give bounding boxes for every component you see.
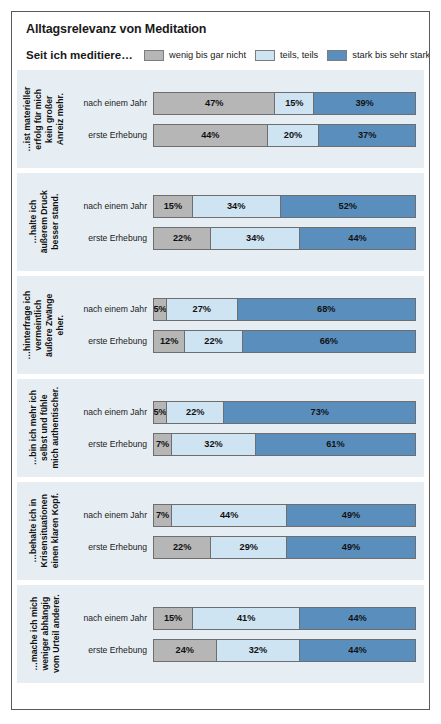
bar-row-label: nach einem Jahr [73,304,153,314]
bar-segment-mid[interactable]: 22% [185,331,242,352]
bar-row: nach einem Jahr5%22%73% [73,401,416,424]
bar-segment-mid[interactable]: 22% [167,402,224,423]
bar-segment-high[interactable]: 39% [314,93,415,114]
chart-subtitle: Seit ich meditiere… [26,49,144,61]
group-category-line: Anreiz mehr. [56,86,67,151]
bar-segment-high[interactable]: 44% [300,640,415,661]
chart-group-panel: …mache ich michweniger abhängigvom Urtei… [17,585,424,683]
bar-segment-low[interactable]: 44% [154,125,268,146]
bar-row: erste Erhebung24%32%44% [73,639,416,662]
bar-segment-high[interactable]: 52% [281,196,415,217]
group-bars: nach einem Jahr5%22%73%erste Erhebung7%3… [73,401,424,456]
bar-segment-high[interactable]: 73% [224,402,415,423]
bar-row: nach einem Jahr5%27%68% [73,298,416,321]
bar-segment-low[interactable]: 22% [154,537,211,558]
bar-segment-low[interactable]: 5% [154,402,167,423]
bar-segment-mid[interactable]: 44% [172,505,287,526]
bar-segment-high[interactable]: 44% [300,228,415,249]
legend-label: wenig bis gar nicht [169,50,246,60]
bar-segment-low[interactable]: 47% [154,93,275,114]
group-bars: nach einem Jahr5%27%68%erste Erhebung12%… [73,298,424,353]
bar-row: erste Erhebung22%34%44% [73,227,416,250]
bar-segment-high[interactable]: 49% [287,537,415,558]
bar-segment-high[interactable]: 44% [300,608,415,629]
group-bars: nach einem Jahr47%15%39%erste Erhebung44… [73,92,424,147]
bar-track: 7%32%61% [153,433,416,456]
group-category-line: …bin ich mehr ich [28,387,39,469]
bar-track: 5%22%73% [153,401,416,424]
group-category-line: äußere Zwänge [45,290,56,359]
bar-row: nach einem Jahr47%15%39% [73,92,416,115]
group-category-line: selbst und fühle [39,387,50,469]
group-category-text: …behalte ich inKrisensituationeneinen kl… [28,493,61,568]
bar-segment-mid[interactable]: 34% [193,196,281,217]
bar-segment-high[interactable]: 68% [238,299,415,320]
legend-swatch-high-icon [327,50,347,61]
legend-swatch-mid-icon [255,50,275,61]
legend-item-high[interactable]: stark bis sehr stark [327,50,430,61]
group-category-line: mich authentischer. [51,387,62,469]
group-category-line: Krisensituationen [39,493,50,568]
bar-track: 22%29%49% [153,536,416,559]
group-category-text: …mache ich michweniger abhängigvom Urtei… [28,595,61,674]
bar-segment-mid[interactable]: 32% [217,640,301,661]
bar-segment-low[interactable]: 24% [154,640,217,661]
group-category-line: eher. [56,290,67,359]
bar-track: 7%44%49% [153,504,416,527]
bar-segment-low[interactable]: 5% [154,299,167,320]
bar-segment-low[interactable]: 15% [154,196,193,217]
bar-track: 22%34%44% [153,227,416,250]
group-category-line: …hinterfrage ich [23,290,34,359]
bar-row-label: erste Erhebung [73,336,153,346]
bar-track: 44%20%37% [153,124,416,147]
legend-item-low[interactable]: wenig bis gar nicht [144,50,246,61]
group-category-line: weniger abhängig [39,595,50,674]
chart-header: Alltagsrelevanz von Meditation Seit ich … [12,12,429,61]
legend-item-mid[interactable]: teils, teils [255,50,318,61]
bar-track: 15%34%52% [153,195,416,218]
legend-label: stark bis sehr stark [352,50,430,60]
bar-segment-low[interactable]: 7% [154,505,172,526]
bar-segment-mid[interactable]: 15% [275,93,314,114]
group-category-label: …behalte ich inKrisensituationeneinen kl… [17,482,73,580]
bar-row: nach einem Jahr15%41%44% [73,607,416,630]
bar-row: erste Erhebung12%22%66% [73,330,416,353]
group-category-text: …halte ichäußerem Druckbesser stand. [28,190,61,253]
bar-row: erste Erhebung22%29%49% [73,536,416,559]
bar-segment-mid[interactable]: 20% [268,125,320,146]
bar-segment-high[interactable]: 66% [243,331,415,352]
group-category-line: …halte ich [28,190,39,253]
bar-track: 15%41%44% [153,607,416,630]
bar-segment-high[interactable]: 37% [319,125,415,146]
group-category-text: …bin ich mehr ichselbst und fühlemich au… [28,387,61,469]
bar-track: 5%27%68% [153,298,416,321]
group-category-line: …behalte ich in [28,493,39,568]
bar-segment-high[interactable]: 49% [287,505,415,526]
bar-segment-mid[interactable]: 29% [211,537,287,558]
bar-row: nach einem Jahr7%44%49% [73,504,416,527]
bar-segment-mid[interactable]: 41% [193,608,300,629]
group-category-line: besser stand. [51,190,62,253]
group-category-label: …halte ichäußerem Druckbesser stand. [17,173,73,271]
bar-segment-low[interactable]: 22% [154,228,211,249]
bar-segment-mid[interactable]: 34% [211,228,300,249]
chart-group-panel: …ist materiellererfolg für michkein groß… [17,70,424,168]
chart-group-panel: …hinterfrage ichvermeintlichäußere Zwäng… [17,276,424,374]
bar-row: erste Erhebung7%32%61% [73,433,416,456]
group-bars: nach einem Jahr15%34%52%erste Erhebung22… [73,195,424,250]
group-category-line: erfolg für mich [34,86,45,151]
bar-segment-mid[interactable]: 27% [167,299,237,320]
group-category-label: …hinterfrage ichvermeintlichäußere Zwäng… [17,276,73,374]
bar-segment-mid[interactable]: 32% [172,434,256,455]
chart-group-panel: …behalte ich inKrisensituationeneinen kl… [17,482,424,580]
group-category-label: …mache ich michweniger abhängigvom Urtei… [17,585,73,683]
bar-segment-low[interactable]: 15% [154,608,193,629]
bar-segment-high[interactable]: 61% [256,434,415,455]
bar-segment-low[interactable]: 12% [154,331,185,352]
legend-label: teils, teils [280,50,318,60]
group-category-text: …hinterfrage ichvermeintlichäußere Zwäng… [23,290,68,359]
bar-row-label: erste Erhebung [73,130,153,140]
group-category-line: kein großer [45,86,56,151]
bar-segment-low[interactable]: 7% [154,434,172,455]
group-category-text: …ist materiellererfolg für michkein groß… [23,86,68,151]
